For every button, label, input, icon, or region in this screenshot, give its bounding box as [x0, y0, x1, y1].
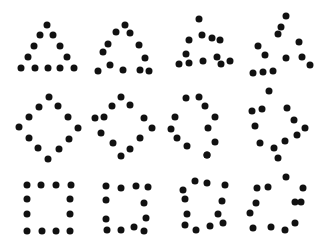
- dot: [133, 183, 140, 190]
- dot: [107, 62, 114, 69]
- dot: [307, 62, 314, 69]
- dot: [98, 130, 105, 137]
- dot: [127, 102, 134, 109]
- dot: [180, 187, 187, 194]
- dot: [55, 103, 62, 110]
- dot: [196, 16, 203, 23]
- dot: [35, 145, 42, 152]
- dot: [192, 178, 199, 185]
- dot: [217, 37, 224, 44]
- dot: [275, 31, 282, 38]
- dot: [247, 210, 254, 217]
- dot: [218, 61, 225, 68]
- dot: [253, 200, 260, 207]
- dot: [296, 39, 303, 46]
- dot: [56, 146, 63, 153]
- dot: [101, 114, 108, 121]
- dot: [283, 174, 290, 181]
- dot: [282, 227, 289, 234]
- dot: [24, 182, 31, 189]
- dot: [283, 13, 290, 20]
- dot: [75, 125, 82, 132]
- dot: [176, 61, 183, 68]
- dot: [174, 135, 181, 142]
- dot: [44, 22, 51, 29]
- dot: [249, 108, 256, 115]
- dot: [113, 29, 120, 36]
- dot: [104, 227, 111, 234]
- dot: [282, 138, 289, 145]
- dot: [202, 103, 209, 110]
- dot: [57, 43, 64, 50]
- dot: [118, 94, 125, 101]
- dot: [39, 228, 46, 235]
- dot: [265, 184, 272, 191]
- dot: [145, 184, 152, 191]
- dot: [67, 228, 74, 235]
- dot: [136, 42, 143, 49]
- dot: [36, 104, 43, 111]
- dot: [68, 182, 75, 189]
- dot: [260, 69, 267, 76]
- dot: [110, 140, 117, 147]
- dot: [137, 135, 144, 142]
- dot: [182, 222, 189, 229]
- dot: [257, 140, 264, 147]
- dot: [268, 224, 275, 231]
- dot: [141, 115, 148, 122]
- dot: [118, 185, 125, 192]
- dot: [250, 225, 257, 232]
- dot: [118, 227, 125, 234]
- dot: [214, 54, 221, 61]
- dot: [67, 211, 74, 218]
- dot: [122, 22, 129, 29]
- dot: [254, 185, 261, 192]
- dot: [193, 227, 200, 234]
- dot: [271, 145, 278, 152]
- dot: [127, 146, 134, 153]
- dot: [278, 24, 285, 31]
- dot: [92, 115, 99, 122]
- dot: [168, 126, 175, 133]
- dot: [141, 200, 148, 207]
- dot: [294, 132, 301, 139]
- dot: [172, 114, 179, 121]
- dot: [220, 220, 227, 227]
- dot: [183, 51, 190, 58]
- dot: [57, 65, 64, 72]
- dot: [65, 114, 72, 121]
- dot: [53, 228, 60, 235]
- dot: [300, 185, 307, 192]
- dot: [284, 105, 291, 112]
- dot: [291, 117, 298, 124]
- dot: [212, 114, 219, 121]
- dot: [71, 65, 78, 72]
- dot: [46, 94, 53, 101]
- dot: [262, 52, 269, 59]
- dot: [100, 49, 107, 56]
- dot: [141, 228, 148, 235]
- dot: [252, 123, 259, 130]
- dot: [212, 139, 219, 146]
- dot: [64, 54, 71, 61]
- dot: [24, 196, 31, 203]
- dot: [50, 32, 57, 39]
- dot: [200, 58, 207, 65]
- dot: [103, 183, 110, 190]
- dot: [24, 228, 31, 235]
- dot: [45, 156, 52, 163]
- dot: [182, 196, 189, 203]
- dot: [184, 143, 191, 150]
- dot: [45, 65, 52, 72]
- dot: [143, 215, 150, 222]
- dot: [67, 196, 74, 203]
- dot: [186, 37, 193, 44]
- dot: [131, 224, 138, 231]
- dot: [66, 136, 73, 143]
- dot: [259, 106, 266, 113]
- dot: [32, 65, 39, 72]
- dot: [127, 30, 134, 37]
- dot: [215, 211, 222, 218]
- dot: [266, 88, 273, 95]
- dot: [270, 68, 277, 75]
